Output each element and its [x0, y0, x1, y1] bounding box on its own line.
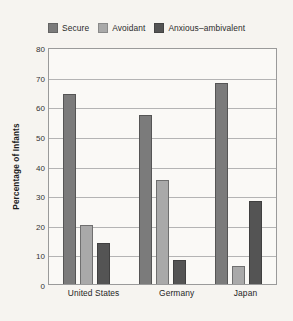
- legend-entry[interactable]: Avoidant: [98, 23, 145, 33]
- x-axis-tick-label: United States: [68, 288, 120, 298]
- bar[interactable]: [97, 243, 110, 284]
- legend-swatch-icon: [154, 23, 164, 33]
- y-axis-tick-label: 70: [36, 74, 45, 83]
- y-axis-tick-label: 80: [36, 45, 45, 54]
- bar[interactable]: [232, 266, 245, 284]
- x-axis-tick-labels: United StatesGermanyJapan: [48, 288, 277, 302]
- legend-entry[interactable]: Anxious–ambivalent: [154, 23, 245, 33]
- bar-group: [215, 49, 262, 284]
- legend-swatch-icon: [98, 23, 108, 33]
- y-axis-tick-label: 50: [36, 133, 45, 142]
- y-axis-tick-label: 60: [36, 104, 45, 113]
- legend-entry[interactable]: Secure: [48, 23, 89, 33]
- bar-group: [63, 49, 110, 284]
- y-axis-title: Percentage of Infants: [9, 48, 23, 285]
- bar[interactable]: [80, 225, 93, 284]
- bar[interactable]: [63, 94, 76, 284]
- y-axis-tick-label: 30: [36, 193, 45, 202]
- y-axis-tick-label: 0: [41, 282, 45, 291]
- bar[interactable]: [173, 260, 186, 284]
- chart-figure: SecureAvoidantAnxious–ambivalent Percent…: [0, 0, 293, 321]
- legend-swatch-icon: [48, 23, 58, 33]
- y-axis-tick-label: 10: [36, 252, 45, 261]
- bar-group: [139, 49, 186, 284]
- bar[interactable]: [139, 115, 152, 284]
- bar[interactable]: [215, 83, 228, 284]
- y-axis-tick-label: 20: [36, 222, 45, 231]
- y-axis-title-text: Percentage of Infants: [12, 123, 21, 209]
- legend-label: Avoidant: [112, 23, 145, 33]
- chart-legend: SecureAvoidantAnxious–ambivalent: [48, 20, 280, 36]
- legend-label: Secure: [62, 23, 89, 33]
- x-axis-tick-label: Germany: [159, 288, 194, 298]
- x-axis-tick-label: Japan: [234, 288, 257, 298]
- plot-area: 01020304050607080: [48, 48, 277, 285]
- bar[interactable]: [156, 180, 169, 284]
- legend-label: Anxious–ambivalent: [168, 23, 245, 33]
- bar-groups: [49, 49, 276, 284]
- bar[interactable]: [249, 201, 262, 284]
- y-axis-tick-label: 40: [36, 163, 45, 172]
